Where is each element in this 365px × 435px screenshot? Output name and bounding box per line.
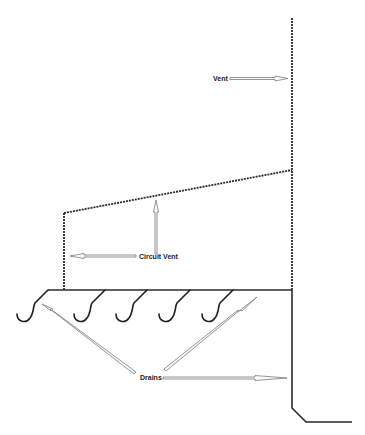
vent-arrow bbox=[230, 76, 288, 81]
circuit-vent-left-arrow bbox=[70, 254, 136, 259]
vent-label: Vent bbox=[213, 75, 228, 82]
trap-5 bbox=[202, 290, 233, 321]
soil-stack bbox=[292, 290, 352, 422]
circuit-vent-label: Circuit Vent bbox=[139, 253, 179, 260]
circuit-vent-sloped bbox=[64, 170, 292, 213]
trap-2 bbox=[74, 290, 105, 321]
trap-1 bbox=[17, 290, 48, 321]
circuit-vent-up-arrow bbox=[154, 200, 159, 254]
drains-arrow-right bbox=[163, 376, 287, 381]
trap-4 bbox=[159, 290, 190, 321]
drains-arrow-up bbox=[164, 297, 257, 371]
plumbing-diagram: Vent Circuit Vent Drains bbox=[0, 0, 365, 435]
trap-3 bbox=[116, 290, 147, 321]
drains-label: Drains bbox=[140, 374, 162, 381]
